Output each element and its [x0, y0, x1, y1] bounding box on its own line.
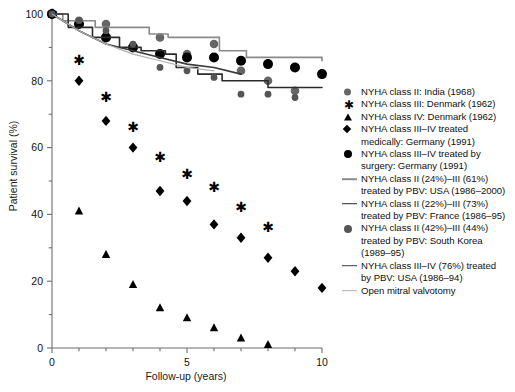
legend-entry[interactable]: NYHA class III–IV treated bysurgery: Ger… — [341, 148, 515, 173]
legend-entry[interactable]: NYHA class II (24%)–III (61%)treated by … — [341, 173, 515, 198]
series-point-7 — [292, 94, 299, 101]
legend-label-line: NYHA class III: Denmark (1962) — [361, 98, 495, 109]
y-tick-label: 20 — [31, 275, 43, 287]
series-point-1: ✱ — [154, 149, 166, 165]
series-point-2 — [156, 303, 164, 311]
legend-label-line: Open mitral valvotomy — [361, 285, 455, 296]
legend-label-line: treated by PBV: USA (1986–2000) — [361, 185, 505, 197]
legend-entry[interactable]: NYHA class III–IV treatedmedically: Germ… — [341, 123, 515, 148]
legend-label: NYHA class II (42%)–III (44%)treated by … — [361, 222, 488, 259]
legend-label-line: surgery: Germany (1991) — [361, 160, 481, 172]
legend-label-line: treated by PBV: France (1986–95) — [361, 210, 505, 222]
series-point-3 — [156, 186, 165, 196]
series-point-1: ✱ — [235, 199, 247, 215]
series-point-4 — [263, 59, 273, 69]
legend-circle-smallgray-icon — [341, 222, 361, 234]
legend-entry[interactable]: NYHA class III–IV (76%) treatedby PBV: U… — [341, 260, 515, 285]
series-point-1: ✱ — [208, 179, 220, 195]
legend-label-line: NYHA class II (42%)–III (44%) — [361, 222, 488, 233]
legend-label-line: medically: Germany (1991) — [361, 136, 475, 148]
legend-label: NYHA class III–IV treatedmedically: Germ… — [361, 123, 475, 148]
series-point-3 — [75, 76, 84, 86]
series-point-7 — [130, 41, 137, 48]
legend-label-line: NYHA class III–IV treated by — [361, 148, 481, 159]
legend-label-line: NYHA class IV: Denmark (1962) — [361, 111, 496, 122]
legend-line-icon — [341, 260, 361, 272]
series-point-2 — [183, 313, 191, 321]
series-point-2 — [75, 206, 83, 214]
y-tick-label: 80 — [31, 75, 43, 87]
series-point-1: ✱ — [181, 166, 193, 182]
legend-label-line: (1989–95) — [361, 247, 488, 259]
series-point-2 — [210, 323, 218, 331]
series-point-7 — [184, 67, 191, 74]
x-axis-label: Follow-up (years) — [126, 370, 246, 382]
y-tick-label: 40 — [31, 208, 43, 220]
legend-entry[interactable]: NYHA class II: India (1968) — [341, 86, 515, 98]
legend-entry[interactable]: NYHA class II (42%)–III (44%)treated by … — [341, 222, 515, 259]
series-point-3 — [210, 219, 219, 229]
legend-label: NYHA class III–IV (76%) treatedby PBV: U… — [361, 260, 496, 285]
series-point-3 — [237, 233, 246, 243]
series-point-3 — [291, 266, 300, 276]
survival-chart-figure: ✱✱✱✱✱✱✱✱✱ 0204060801000510 Patient survi… — [0, 0, 515, 392]
legend-line-icon — [341, 285, 361, 297]
series-point-2 — [129, 280, 137, 288]
legend-label-line: by PBV: USA (1986–94) — [361, 272, 496, 284]
legend-label-line: NYHA class II (24%)–III (61%) — [361, 173, 488, 184]
y-axis-label: Patient survival (%) — [7, 106, 19, 226]
series-point-1: ✱ — [127, 119, 139, 135]
legend-line-icon — [341, 173, 361, 185]
series-point-7 — [211, 74, 218, 81]
series-point-2 — [237, 333, 245, 341]
legend-label-line: NYHA class III–IV treated — [361, 123, 468, 134]
legend-label: NYHA class II (22%)–III (73%)treated by … — [361, 198, 505, 223]
series-point-4 — [290, 62, 300, 72]
series-point-0 — [210, 40, 219, 49]
series-point-3 — [129, 142, 138, 152]
x-tick-label: 5 — [184, 356, 190, 368]
legend-triangle-icon — [341, 111, 361, 123]
legend-asterisk-icon: ✱ — [341, 98, 361, 110]
legend-label: NYHA class II (24%)–III (61%)treated by … — [361, 173, 505, 198]
legend-label: Open mitral valvotomy — [361, 285, 455, 297]
series-point-7 — [103, 27, 110, 34]
legend-label: NYHA class III: Denmark (1962) — [361, 98, 495, 110]
series-point-1: ✱ — [262, 219, 274, 235]
legend-entry[interactable]: ✱NYHA class III: Denmark (1962) — [341, 98, 515, 110]
series-point-4 — [209, 52, 219, 62]
legend-label-line: NYHA class II: India (1968) — [361, 86, 475, 97]
legend-label-line: NYHA class II (22%)–III (73%) — [361, 198, 488, 209]
series-point-4 — [182, 52, 192, 62]
y-tick-label: 0 — [37, 342, 43, 354]
legend-circle-black-icon — [341, 148, 361, 160]
series-point-7 — [76, 17, 83, 24]
series-point-7 — [265, 91, 272, 98]
y-tick-label: 100 — [25, 8, 43, 20]
legend-entry[interactable]: NYHA class II (22%)–III (73%)treated by … — [341, 198, 515, 223]
legend-label: NYHA class II: India (1968) — [361, 86, 475, 98]
series-point-7 — [238, 91, 245, 98]
legend-entry[interactable]: Open mitral valvotomy — [341, 285, 515, 297]
legend-label: NYHA class IV: Denmark (1962) — [361, 111, 496, 123]
series-point-7 — [157, 64, 164, 71]
legend-label: NYHA class III–IV treated bysurgery: Ger… — [361, 148, 481, 173]
data-series-group: ✱✱✱✱✱✱✱✱✱ — [46, 6, 327, 348]
series-point-1: ✱ — [73, 52, 85, 68]
legend-label-line: NYHA class III–IV (76%) treated — [361, 260, 496, 271]
series-point-2 — [264, 340, 272, 348]
series-point-3 — [183, 196, 192, 206]
x-tick-label: 0 — [49, 356, 55, 368]
chart-legend: NYHA class II: India (1968)✱NYHA class I… — [341, 86, 515, 297]
series-point-3 — [102, 116, 111, 126]
series-point-2 — [102, 250, 110, 258]
legend-line-icon — [341, 198, 361, 210]
series-point-4 — [236, 56, 246, 66]
x-tick-label: 10 — [316, 356, 328, 368]
series-point-1: ✱ — [100, 89, 112, 105]
axes-group — [47, 14, 322, 353]
legend-entry[interactable]: NYHA class IV: Denmark (1962) — [341, 111, 515, 123]
series-point-3 — [264, 253, 273, 263]
y-tick-label: 60 — [31, 141, 43, 153]
legend-label-line: treated by PBV: South Korea — [361, 235, 488, 247]
